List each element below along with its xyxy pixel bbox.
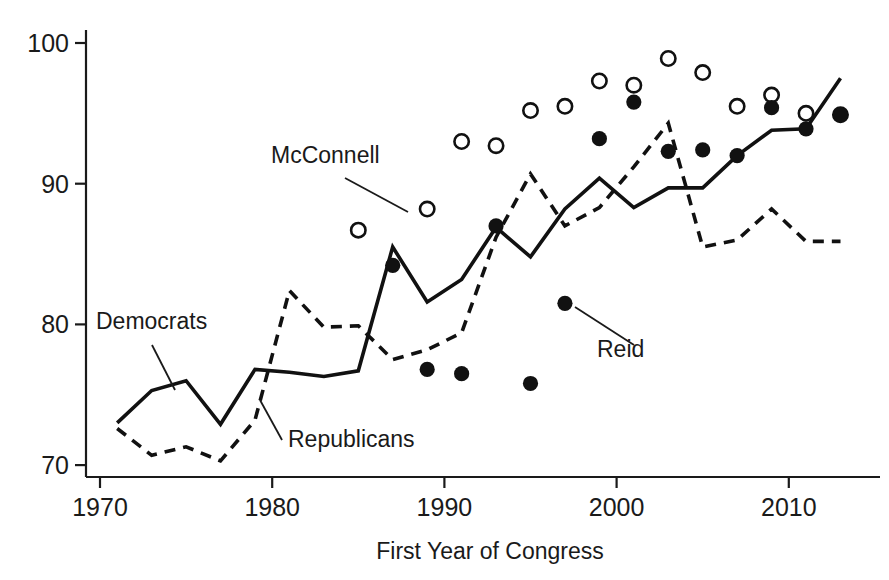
reid-point: [695, 142, 710, 157]
mcconnell-point: [489, 139, 503, 153]
mcconnell-point: [627, 78, 641, 92]
reid-point: [764, 100, 779, 115]
y-tick-label: 90: [41, 170, 69, 198]
reid-label: Reid: [597, 336, 644, 362]
republicans-leader-line: [260, 400, 282, 440]
mcconnell-point: [799, 106, 813, 120]
reid-point: [661, 144, 676, 159]
democrats-line: [117, 78, 840, 424]
reid-point: [385, 258, 400, 273]
republicans-line: [117, 123, 840, 461]
y-tick-label: 70: [41, 451, 69, 479]
chart-figure: McConnellDemocratsRepublicansReid 708090…: [0, 0, 889, 580]
reid-point: [454, 366, 469, 381]
mcconnell-point: [730, 99, 744, 113]
democrats-leader-line: [152, 345, 175, 390]
x-tick-label: 2000: [589, 493, 645, 521]
reid-point: [557, 296, 572, 311]
reid-point: [523, 376, 538, 391]
mcconnell-point: [523, 103, 537, 117]
reid-point: [833, 107, 848, 122]
mcconnell-point: [661, 51, 675, 65]
mcconnell-point: [592, 74, 606, 88]
mcconnell-label: McConnell: [271, 142, 380, 168]
y-tick-label: 80: [41, 310, 69, 338]
republicans-label: Republicans: [288, 426, 415, 452]
x-tick-label: 1990: [417, 493, 473, 521]
x-axis-title: First Year of Congress: [376, 538, 604, 564]
chart-canvas: McConnellDemocratsRepublicansReid 708090…: [0, 0, 889, 580]
mcconnell-point: [764, 88, 778, 102]
x-tick-label: 2010: [761, 493, 817, 521]
reid-point: [488, 218, 503, 233]
mcconnell-point: [351, 223, 365, 237]
reid-point: [592, 131, 607, 146]
axes-layer: [75, 30, 880, 488]
reid-point: [420, 362, 435, 377]
mcconnell-point: [420, 202, 434, 216]
democrats-label: Democrats: [96, 308, 207, 334]
x-tick-label: 1970: [72, 493, 128, 521]
x-tick-label: 1980: [244, 493, 300, 521]
series-democrats: [117, 78, 840, 424]
reid-point: [626, 94, 641, 109]
series-layer: [117, 51, 848, 461]
mcconnell-point: [696, 65, 710, 79]
reid-point: [798, 121, 813, 136]
y-tick-label: 100: [27, 29, 69, 57]
series-republicans: [117, 123, 840, 461]
mcconnell-point: [558, 99, 572, 113]
mcconnell-point: [454, 134, 468, 148]
mcconnell-leader-line: [345, 178, 408, 212]
reid-point: [730, 148, 745, 163]
